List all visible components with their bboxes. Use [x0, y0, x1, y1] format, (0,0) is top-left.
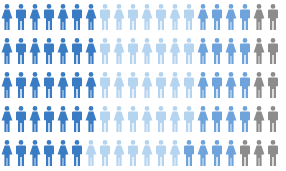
person-male-icon — [98, 104, 112, 134]
icon-row-2 — [0, 36, 280, 66]
person-female-icon — [56, 70, 70, 100]
person-female-icon — [224, 2, 238, 32]
person-female-icon — [28, 104, 42, 134]
person-female-icon — [196, 36, 210, 66]
person-female-icon — [28, 2, 42, 32]
person-male-icon — [14, 70, 28, 100]
person-male-icon — [70, 104, 84, 134]
person-female-icon — [112, 104, 126, 134]
person-male-icon — [210, 36, 224, 66]
person-male-icon — [182, 36, 196, 66]
person-male-icon — [210, 70, 224, 100]
person-male-icon — [126, 138, 140, 168]
person-female-icon — [140, 2, 154, 32]
person-female-icon — [84, 138, 98, 168]
person-male-icon — [42, 2, 56, 32]
person-male-icon — [238, 104, 252, 134]
person-male-icon — [42, 36, 56, 66]
person-male-icon — [14, 138, 28, 168]
person-male-icon — [98, 2, 112, 32]
person-male-icon — [266, 138, 280, 168]
person-female-icon — [196, 2, 210, 32]
person-male-icon — [266, 70, 280, 100]
person-female-icon — [140, 36, 154, 66]
person-male-icon — [98, 70, 112, 100]
person-female-icon — [224, 104, 238, 134]
person-male-icon — [154, 70, 168, 100]
person-male-icon — [98, 138, 112, 168]
person-male-icon — [182, 104, 196, 134]
person-male-icon — [42, 104, 56, 134]
person-female-icon — [0, 138, 14, 168]
person-female-icon — [56, 104, 70, 134]
person-female-icon — [112, 2, 126, 32]
person-female-icon — [252, 2, 266, 32]
person-female-icon — [0, 2, 14, 32]
person-male-icon — [182, 138, 196, 168]
person-female-icon — [252, 70, 266, 100]
person-female-icon — [168, 36, 182, 66]
person-female-icon — [196, 138, 210, 168]
person-male-icon — [42, 70, 56, 100]
person-male-icon — [238, 2, 252, 32]
person-female-icon — [168, 2, 182, 32]
icon-row-3 — [0, 70, 280, 100]
person-female-icon — [56, 2, 70, 32]
person-male-icon — [266, 104, 280, 134]
person-female-icon — [168, 104, 182, 134]
person-female-icon — [196, 70, 210, 100]
person-male-icon — [182, 2, 196, 32]
person-female-icon — [56, 138, 70, 168]
person-male-icon — [70, 2, 84, 32]
person-female-icon — [28, 70, 42, 100]
person-male-icon — [210, 138, 224, 168]
person-female-icon — [140, 70, 154, 100]
person-male-icon — [98, 36, 112, 66]
person-female-icon — [28, 36, 42, 66]
person-male-icon — [14, 36, 28, 66]
person-female-icon — [224, 70, 238, 100]
person-male-icon — [154, 138, 168, 168]
person-male-icon — [14, 2, 28, 32]
person-female-icon — [84, 36, 98, 66]
person-female-icon — [252, 138, 266, 168]
person-female-icon — [0, 36, 14, 66]
person-male-icon — [70, 70, 84, 100]
person-female-icon — [168, 70, 182, 100]
person-male-icon — [210, 2, 224, 32]
person-female-icon — [84, 70, 98, 100]
icon-row-4 — [0, 104, 280, 134]
person-female-icon — [0, 104, 14, 134]
person-male-icon — [238, 70, 252, 100]
person-female-icon — [112, 70, 126, 100]
person-female-icon — [252, 36, 266, 66]
person-female-icon — [56, 36, 70, 66]
icon-row-1 — [0, 2, 280, 32]
person-female-icon — [112, 36, 126, 66]
person-male-icon — [238, 138, 252, 168]
person-male-icon — [70, 36, 84, 66]
pictograph-chart — [0, 0, 286, 171]
person-male-icon — [266, 2, 280, 32]
person-male-icon — [238, 36, 252, 66]
person-male-icon — [14, 104, 28, 134]
person-male-icon — [154, 2, 168, 32]
person-female-icon — [252, 104, 266, 134]
person-male-icon — [70, 138, 84, 168]
person-male-icon — [126, 36, 140, 66]
person-male-icon — [126, 70, 140, 100]
person-male-icon — [182, 70, 196, 100]
person-male-icon — [154, 104, 168, 134]
person-female-icon — [112, 138, 126, 168]
icon-row-5 — [0, 138, 280, 168]
person-female-icon — [84, 104, 98, 134]
person-female-icon — [196, 104, 210, 134]
person-female-icon — [140, 104, 154, 134]
person-male-icon — [126, 104, 140, 134]
person-female-icon — [140, 138, 154, 168]
person-male-icon — [266, 36, 280, 66]
person-female-icon — [224, 36, 238, 66]
person-female-icon — [168, 138, 182, 168]
person-male-icon — [126, 2, 140, 32]
person-female-icon — [0, 70, 14, 100]
